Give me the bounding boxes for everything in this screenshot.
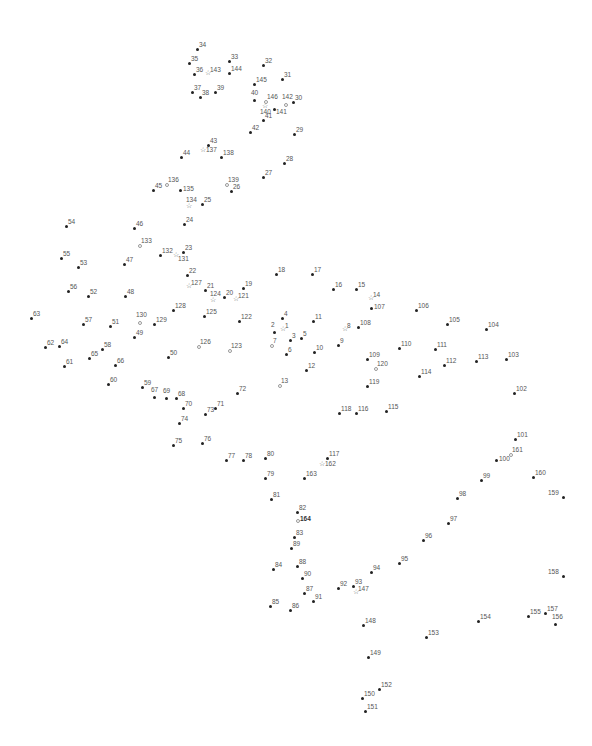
dot-number-label: 58 xyxy=(104,342,111,349)
dot-number-label: 98 xyxy=(459,491,466,498)
dot-icon xyxy=(153,396,156,399)
dot-number-label: 126 xyxy=(200,339,211,346)
dot-number-label: 128 xyxy=(175,303,186,310)
dot-number-label: 95 xyxy=(401,556,408,563)
dot-number-label: 112 xyxy=(446,358,456,365)
dot-number-label: 121 xyxy=(238,293,249,300)
dot-number-label: 162 xyxy=(325,461,336,468)
dot-number-label: 14 xyxy=(373,292,380,299)
dot-number-label: 102 xyxy=(516,386,527,393)
dot-number-label: 137 xyxy=(206,147,217,154)
dot-number-label: 56 xyxy=(70,284,77,291)
dot-number-label: 4 xyxy=(284,311,288,318)
dot-number-label: 118 xyxy=(341,406,351,413)
dot-number-label: 101 xyxy=(517,432,528,439)
dot-number-label: 122 xyxy=(241,314,252,321)
dot-number-label: 123 xyxy=(231,343,242,350)
dot-icon xyxy=(562,575,565,578)
dot-number-label: 157 xyxy=(547,606,558,613)
dot-number-label: 134 xyxy=(186,197,197,204)
dot-number-label: 130 xyxy=(136,312,147,319)
dot-number-label: 97 xyxy=(450,516,457,523)
dot-number-label: 46 xyxy=(136,221,143,228)
dot-number-label: 125 xyxy=(206,309,217,316)
dot-number-label: 19 xyxy=(245,281,252,288)
dot-number-label: 103 xyxy=(508,352,519,359)
dot-number-label: 38 xyxy=(202,90,209,97)
dot-icon xyxy=(253,99,256,102)
dot-number-label: 116 xyxy=(358,406,368,413)
dot-number-label: 70 xyxy=(185,401,192,408)
dot-number-label: 89 xyxy=(293,541,300,548)
dot-number-label: 28 xyxy=(286,156,293,163)
dot-number-label: 159 xyxy=(548,490,559,497)
dot-number-label: 21 xyxy=(207,283,214,290)
dot-to-dot-board: ☆1234567☆8910111213☆14151617181920212223… xyxy=(0,0,592,746)
dot-number-label: 150 xyxy=(364,691,375,698)
dot-number-label: 145 xyxy=(256,77,267,84)
dot-number-label: 31 xyxy=(284,72,291,79)
dot-number-label: 131 xyxy=(178,256,189,263)
dot-number-label: 69 xyxy=(163,388,170,395)
dot-number-label: 99 xyxy=(483,473,490,480)
dot-number-label: 141 xyxy=(276,109,287,116)
dot-number-label: 72 xyxy=(239,386,246,393)
dot-number-label: 35 xyxy=(191,56,198,63)
dot-number-label: 50 xyxy=(170,350,177,357)
dot-number-label: 26 xyxy=(233,184,240,191)
dot-number-label: 44 xyxy=(183,150,190,157)
dot-number-label: 2 xyxy=(271,322,275,329)
dot-number-label: 67 xyxy=(151,387,158,394)
dot-number-label: 114 xyxy=(421,369,431,376)
dot-number-label: 62 xyxy=(47,340,54,347)
dot-number-label: 63 xyxy=(33,311,40,318)
dot-number-label: 37 xyxy=(194,85,201,92)
dot-icon xyxy=(370,307,373,310)
dot-number-label: 23 xyxy=(185,245,192,252)
dot-number-label: 106 xyxy=(418,303,429,310)
dot-number-label: 110 xyxy=(401,341,411,348)
dot-number-label: 9 xyxy=(340,338,344,345)
dot-number-label: 117 xyxy=(329,451,339,458)
dot-number-label: 64 xyxy=(61,339,68,346)
dot-number-label: 132 xyxy=(162,248,173,255)
dot-number-label: 15 xyxy=(358,282,365,289)
dot-icon xyxy=(179,189,182,192)
dot-number-label: 161 xyxy=(512,447,523,454)
dot-number-label: 127 xyxy=(191,280,202,287)
dot-number-label: 43 xyxy=(210,138,217,145)
dot-number-label: 84 xyxy=(275,562,282,569)
dot-number-label: 27 xyxy=(265,170,272,177)
dot-number-label: 71 xyxy=(217,401,224,408)
dot-number-label: 85 xyxy=(272,599,279,606)
dot-number-label: 47 xyxy=(126,257,133,264)
dot-number-label: 55 xyxy=(63,251,70,258)
dot-number-label: 79 xyxy=(267,471,274,478)
dot-number-label: 96 xyxy=(425,533,432,540)
dot-number-label: 32 xyxy=(265,58,272,65)
dot-number-label: 143 xyxy=(210,67,221,74)
dot-number-label: 11 xyxy=(315,314,322,321)
dot-number-label: 148 xyxy=(365,618,376,625)
dot-number-label: 52 xyxy=(90,289,97,296)
dot-number-label: 120 xyxy=(377,361,388,368)
dot-number-label: 39 xyxy=(217,85,224,92)
dot-number-label: 133 xyxy=(141,238,152,245)
dot-number-label: 105 xyxy=(449,317,460,324)
dot-number-label: 42 xyxy=(252,125,259,132)
dot-number-label: 87 xyxy=(306,586,313,593)
dot-number-label: 33 xyxy=(231,54,238,61)
dot-number-label: 6 xyxy=(288,347,292,354)
hollow-dot-icon xyxy=(138,321,142,325)
dot-number-label: 124 xyxy=(210,291,221,298)
dot-number-label: 1 xyxy=(285,323,289,330)
dot-number-label: 48 xyxy=(127,289,134,296)
dot-number-label: 40 xyxy=(251,90,258,97)
dot-icon xyxy=(554,623,557,626)
dot-number-label: 156 xyxy=(552,614,563,621)
dot-number-label: 88 xyxy=(299,559,306,566)
dot-number-label: 90 xyxy=(304,571,311,578)
dot-number-label: 154 xyxy=(480,614,491,621)
dot-number-label: 129 xyxy=(156,317,167,324)
dot-number-label: 66 xyxy=(117,358,124,365)
